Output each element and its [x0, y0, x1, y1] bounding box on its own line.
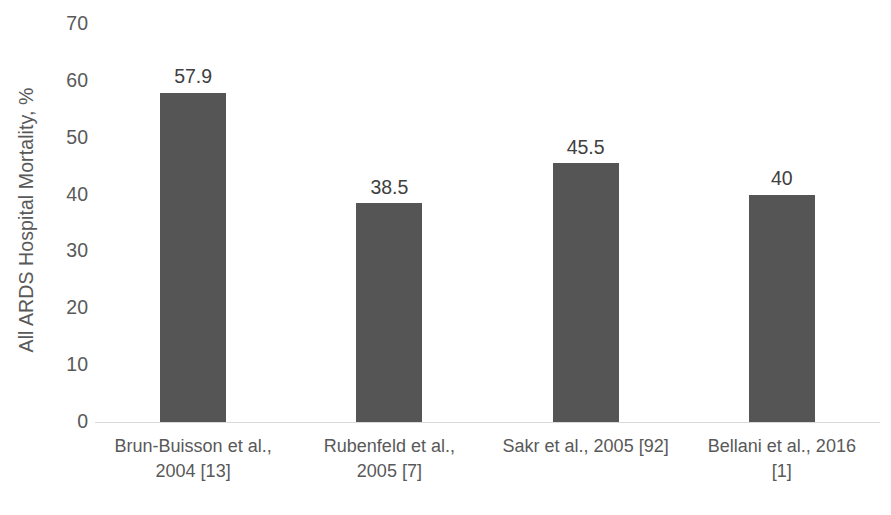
bar[interactable] [160, 93, 226, 422]
bar[interactable] [553, 163, 619, 422]
bar[interactable] [749, 195, 815, 422]
y-tick-label: 40 [40, 185, 88, 205]
bar-slot: 57.9 [95, 24, 291, 422]
x-category-line: Bellani et al., 2016 [686, 434, 878, 459]
y-tick-label: 20 [40, 298, 88, 318]
x-category-label: Bellani et al., 2016 [1] [684, 434, 880, 504]
y-tick-label: 60 [40, 71, 88, 91]
x-category-line: Brun-Buisson et al., [97, 434, 289, 459]
bar-series: 57.9 38.5 45.5 40 [95, 24, 880, 422]
y-axis-title: All ARDS Hospital Mortality, % [9, 0, 43, 440]
y-tick-label: 30 [40, 241, 88, 261]
x-axis-category-labels: Brun-Buisson et al., 2004 [13] Rubenfeld… [95, 434, 880, 504]
x-category-label: Sakr et al., 2005 [92] [488, 434, 684, 504]
x-category-label: Rubenfeld et al., 2005 [7] [291, 434, 487, 504]
bar-slot: 45.5 [488, 24, 684, 422]
y-axis-tick-labels: 70 60 50 40 30 20 10 0 [40, 0, 88, 515]
y-tick-label: 10 [40, 355, 88, 375]
y-tick-label: 50 [40, 128, 88, 148]
x-category-line: 2005 [7] [293, 459, 485, 484]
bar-data-label: 38.5 [291, 178, 487, 198]
x-category-line: [1] [686, 459, 878, 484]
x-category-label: Brun-Buisson et al., 2004 [13] [95, 434, 291, 504]
bar-slot: 38.5 [291, 24, 487, 422]
x-category-line: Sakr et al., 2005 [92] [490, 434, 682, 459]
x-category-line: Rubenfeld et al., [293, 434, 485, 459]
bar[interactable] [356, 203, 422, 422]
x-category-line: 2004 [13] [97, 459, 289, 484]
bar-data-label: 45.5 [488, 138, 684, 158]
x-axis-baseline [95, 422, 880, 423]
bar-chart: All ARDS Hospital Mortality, % 70 60 50 … [0, 0, 891, 515]
y-tick-label: 0 [40, 412, 88, 432]
bar-data-label: 40 [684, 169, 880, 189]
y-tick-label: 70 [40, 14, 88, 34]
bar-slot: 40 [684, 24, 880, 422]
bar-data-label: 57.9 [95, 67, 291, 87]
